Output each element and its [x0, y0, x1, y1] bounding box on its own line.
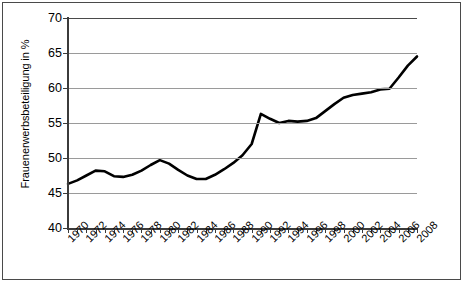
y-axis-tick-labels: 70656055504540 [32, 0, 62, 284]
y-axis-tick-mark [63, 18, 68, 19]
gridline [68, 193, 417, 194]
y-axis-tick-label: 40 [32, 221, 62, 235]
gridline [68, 158, 417, 159]
y-axis-tick-label: 50 [32, 151, 62, 165]
y-axis-tick-mark [63, 123, 68, 124]
gridline [68, 88, 417, 89]
y-axis-tick-mark [63, 193, 68, 194]
y-axis-tick-mark [63, 88, 68, 89]
y-axis-tick-label: 60 [32, 81, 62, 95]
y-axis-title: Frauenerwerbsbeteiligung in % [19, 19, 31, 209]
gridline [68, 123, 417, 124]
gridline [68, 53, 417, 54]
y-axis-tick-mark [63, 228, 68, 229]
gridline [68, 18, 417, 19]
y-axis-tick-mark [63, 158, 68, 159]
y-axis-tick-mark [63, 53, 68, 54]
y-axis-tick-label: 55 [32, 116, 62, 130]
y-axis-tick-label: 70 [32, 11, 62, 25]
plot-area [68, 18, 417, 228]
chart-container: Frauenerwerbsbeteiligung in % 7065605550… [0, 0, 465, 284]
y-axis-tick-label: 45 [32, 186, 62, 200]
y-axis-tick-label: 65 [32, 46, 62, 60]
